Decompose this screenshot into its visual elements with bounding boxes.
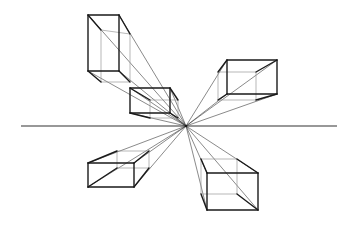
boxes-group [88, 15, 277, 210]
vanishing-point [185, 125, 187, 127]
back-edge [101, 30, 130, 34]
depth-edge [134, 168, 149, 187]
depth-edge [88, 151, 117, 163]
depth-edge [119, 15, 130, 34]
bottom-left-box [88, 151, 149, 187]
top-left-box [88, 15, 130, 82]
depth-edge [119, 71, 130, 82]
vanishing-rays [88, 15, 277, 210]
perspective-drawing [0, 0, 356, 226]
depth-edge [201, 159, 207, 173]
depth-edge [237, 159, 258, 173]
vanishing-ray [186, 60, 277, 126]
bottom-right-box [201, 159, 258, 210]
depth-edge [237, 194, 258, 210]
vanishing-ray [186, 60, 227, 126]
depth-edge [256, 94, 277, 100]
depth-edge [88, 15, 101, 30]
top-right-box [218, 60, 277, 100]
center-left-box [130, 88, 178, 118]
depth-edge [130, 113, 150, 118]
depth-edge [88, 168, 117, 187]
depth-edge [88, 71, 101, 82]
vanishing-ray [186, 94, 277, 126]
depth-edge [256, 60, 277, 72]
depth-edge [201, 194, 207, 210]
depth-edge [218, 60, 227, 72]
